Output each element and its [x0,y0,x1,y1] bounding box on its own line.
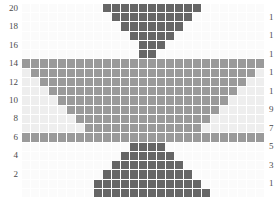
chart-cell [22,115,31,124]
chart-cell [166,96,175,105]
chart-cell [139,59,148,68]
chart-cell [31,115,40,124]
chart-cell [130,96,139,105]
chart-cell [139,50,148,59]
chart-cell [58,161,67,170]
chart-cell [139,106,148,115]
chart-cell [229,143,238,152]
chart-cell [40,96,49,105]
chart-cell [229,115,238,124]
chart-cell [238,96,247,105]
chart-cell [157,4,166,13]
chart-cell [220,180,229,189]
chart-cell [256,32,265,41]
chart-cell [130,22,139,31]
chart-cell [211,59,220,68]
chart-cell [40,143,49,152]
chart-cell [229,96,238,105]
chart-cell [76,189,85,198]
chart-cell [220,133,229,142]
chart-cell [67,170,76,179]
chart-cell [22,4,31,13]
chart-row [22,115,265,124]
chart-cell [148,96,157,105]
chart-cell [40,59,49,68]
chart-cell [166,59,175,68]
chart-cell [166,152,175,161]
chart-row [22,78,265,87]
chart-cell [85,189,94,198]
chart-cell [76,59,85,68]
chart-cell [130,87,139,96]
chart-cell [121,50,130,59]
chart-cell [238,152,247,161]
chart-cell [76,152,85,161]
chart-cell [184,170,193,179]
chart-cell [184,87,193,96]
chart-cell [184,50,193,59]
chart-cell [22,32,31,41]
chart-cell [193,96,202,105]
chart-cell [139,152,148,161]
chart-cell [238,69,247,78]
chart-cell [220,106,229,115]
row-label-left: 20 [9,4,18,13]
chart-cell [193,69,202,78]
chart-cell [193,115,202,124]
chart-cell [76,87,85,96]
chart-cell [112,22,121,31]
chart-cell [211,180,220,189]
chart-cell [256,87,265,96]
chart-cell [148,180,157,189]
chart-cell [49,41,58,50]
chart-cell [40,87,49,96]
chart-cell [112,41,121,50]
chart-cell [85,59,94,68]
chart-cell [202,106,211,115]
chart-cell [121,59,130,68]
chart-cell [85,143,94,152]
chart-row [22,87,265,96]
chart-cell [157,124,166,133]
chart-cell [166,143,175,152]
chart-cell [229,32,238,41]
chart-cell [85,180,94,189]
chart-cell [112,115,121,124]
chart-cell [157,22,166,31]
chart-cell [193,161,202,170]
chart-cell [130,180,139,189]
chart-cell [193,106,202,115]
chart-cell [166,22,175,31]
chart-cell [49,69,58,78]
chart-cell [112,106,121,115]
chart-cell [139,41,148,50]
chart-cell [49,50,58,59]
chart-cell [256,69,265,78]
chart-cell [49,87,58,96]
chart-cell [157,78,166,87]
chart-cell [202,161,211,170]
chart-cell [229,189,238,198]
chart-cell [211,4,220,13]
chart-cell [256,59,265,68]
chart-cell [220,69,229,78]
chart-cell [85,161,94,170]
chart-cell [202,22,211,31]
chart-cell [184,161,193,170]
chart-cell [22,106,31,115]
chart-cell [112,161,121,170]
chart-cell [121,87,130,96]
chart-cell [121,180,130,189]
chart-cell [130,115,139,124]
chart-cell [49,180,58,189]
chart-cell [229,87,238,96]
chart-cell [40,152,49,161]
chart-cell [112,59,121,68]
chart-cell [247,180,256,189]
chart-cell [103,152,112,161]
chart-cell [184,4,193,13]
chart-cell [211,143,220,152]
chart-cell [58,133,67,142]
chart-cell [211,115,220,124]
chart-cell [22,50,31,59]
